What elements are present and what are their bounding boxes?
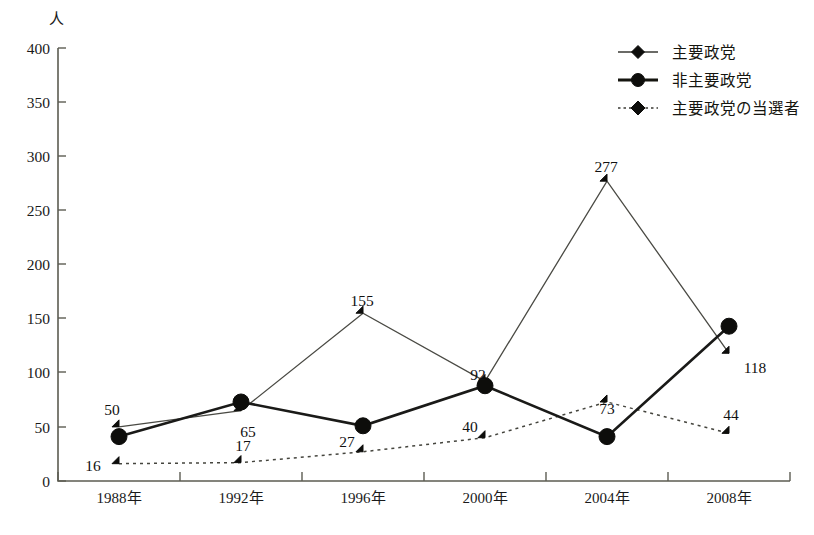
data-label: 16 — [85, 457, 101, 474]
y-axis-ticks — [58, 48, 66, 481]
y-tick-label: 100 — [27, 364, 51, 381]
y-tick-label: 300 — [27, 148, 51, 165]
y-tick-label: 200 — [27, 256, 51, 273]
y-axis-tick-labels: 400 350 300 250 200 150 100 50 0 — [27, 40, 51, 490]
legend-label-elected: 主要政党の当選者 — [672, 100, 800, 117]
data-label: 92 — [470, 366, 486, 383]
y-tick-label: 350 — [27, 94, 51, 111]
line-chart: 人 400 350 300 250 200 150 100 50 0 — [0, 0, 814, 535]
y-axis-unit-label: 人 — [49, 10, 64, 27]
series-markers-elected — [112, 395, 729, 464]
data-point-marker-diamond-elected — [356, 445, 363, 452]
data-point-marker-diamond-main-party — [600, 174, 607, 181]
chart-legend: 主要政党 非主要政党 主要政党の当選者 — [618, 44, 800, 117]
x-tick-label: 1988年 — [97, 490, 142, 506]
legend-marker-diamond-main-party — [632, 46, 645, 59]
data-point-marker-diamond-elected — [234, 456, 241, 463]
series-markers-non-main-party — [111, 318, 737, 444]
data-label: 44 — [723, 406, 739, 423]
data-label: 277 — [594, 158, 618, 175]
series-markers-main-party — [112, 174, 729, 427]
data-label: 17 — [235, 437, 251, 454]
data-label: 40 — [462, 418, 478, 435]
x-tick-label: 2004年 — [585, 490, 630, 506]
x-tick-label: 2000年 — [463, 490, 508, 506]
legend-marker-diamond-elected — [631, 101, 645, 115]
y-tick-label: 150 — [27, 310, 51, 327]
chart-container: 人 400 350 300 250 200 150 100 50 0 — [0, 0, 814, 535]
data-point-marker-diamond-elected — [112, 457, 119, 464]
data-label: 50 — [104, 401, 120, 418]
data-point-marker-diamond-elected — [722, 426, 729, 433]
legend-label-non-main-party: 非主要政党 — [672, 72, 752, 89]
y-tick-label: 250 — [27, 202, 51, 219]
data-labels-main-party: 50 65 155 92 277 118 — [104, 158, 766, 440]
data-label: 73 — [599, 400, 615, 417]
x-axis-ticks — [58, 472, 790, 481]
data-label: 27 — [339, 433, 355, 450]
data-point-marker-circle-non-main-party — [721, 318, 737, 334]
series-line-main-party — [119, 181, 729, 427]
data-point-marker-circle-non-main-party — [111, 429, 127, 445]
x-axis-tick-labels: 1988年 1992年 1996年 2000年 2004年 2008年 — [97, 490, 752, 506]
data-point-marker-circle-non-main-party — [355, 418, 371, 434]
data-label: 118 — [744, 359, 767, 376]
data-point-marker-circle-non-main-party — [233, 394, 249, 410]
x-tick-label: 2008年 — [707, 490, 752, 506]
series-line-non-main-party — [119, 326, 729, 436]
data-point-marker-circle-non-main-party — [599, 429, 615, 445]
x-tick-label: 1992年 — [219, 490, 264, 506]
data-point-marker-diamond-elected — [478, 431, 485, 438]
data-point-marker-diamond-main-party — [112, 420, 119, 427]
y-tick-label: 0 — [42, 473, 50, 490]
x-tick-label: 1996年 — [341, 490, 386, 506]
legend-marker-circle-non-main-party — [632, 74, 645, 87]
y-tick-label: 50 — [35, 419, 51, 436]
data-label: 155 — [350, 292, 374, 309]
y-tick-label: 400 — [27, 40, 51, 57]
legend-label-main-party: 主要政党 — [672, 44, 736, 61]
